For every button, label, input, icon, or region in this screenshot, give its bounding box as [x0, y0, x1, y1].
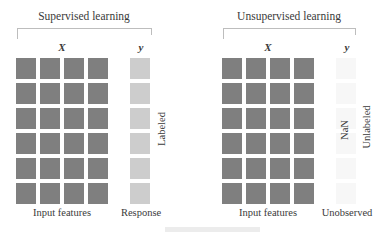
feature-cell	[270, 108, 290, 129]
unsupervised-y-label: y	[345, 41, 350, 53]
feature-cell	[16, 133, 36, 154]
response-cell	[130, 183, 150, 204]
feature-cell	[294, 58, 314, 79]
response-label: Response	[121, 207, 161, 218]
feature-cell	[16, 108, 36, 129]
feature-cell	[270, 158, 290, 179]
feature-cell	[16, 83, 36, 104]
response-cell	[130, 133, 150, 154]
feature-cell	[222, 58, 242, 79]
feature-cell	[64, 183, 84, 204]
feature-cell	[16, 158, 36, 179]
feature-cell	[222, 183, 242, 204]
feature-cell	[294, 83, 314, 104]
feature-cell	[222, 83, 242, 104]
unsupervised-input-features-label: Input features	[239, 207, 297, 218]
feature-cell	[40, 58, 60, 79]
feature-cell	[270, 58, 290, 79]
feature-cell	[246, 158, 266, 179]
feature-cell	[16, 183, 36, 204]
labeled-label: Labeled	[156, 112, 167, 146]
unobserved-cell	[336, 183, 356, 204]
response-cell	[130, 108, 150, 129]
unobserved-label: Unobserved	[322, 207, 373, 218]
feature-cell	[64, 83, 84, 104]
feature-cell	[294, 133, 314, 154]
feature-cell	[40, 108, 60, 129]
feature-cell	[222, 108, 242, 129]
unsupervised-bracket-left-tick	[223, 28, 224, 39]
feature-cell	[270, 183, 290, 204]
feature-cell	[16, 58, 36, 79]
feature-cell	[270, 133, 290, 154]
unobserved-cell	[336, 83, 356, 104]
supervised-bracket	[17, 28, 151, 29]
feature-cell	[88, 133, 108, 154]
feature-cell	[294, 108, 314, 129]
feature-cell	[246, 108, 266, 129]
unsupervised-x-label: X	[264, 41, 271, 53]
feature-cell	[40, 183, 60, 204]
unlabeled-label: Unlabeled	[361, 105, 372, 148]
feature-cell	[294, 183, 314, 204]
supervised-bracket-left-tick	[17, 28, 18, 39]
feature-cell	[88, 183, 108, 204]
unobserved-cell	[336, 158, 356, 179]
supervised-x-label: X	[58, 41, 65, 53]
supervised-y-label: y	[139, 41, 144, 53]
supervised-input-features-label: Input features	[33, 207, 91, 218]
feature-cell	[88, 158, 108, 179]
feature-cell	[88, 58, 108, 79]
feature-cell	[246, 183, 266, 204]
feature-cell	[222, 158, 242, 179]
unsupervised-title: Unsupervised learning	[237, 10, 341, 22]
feature-cell	[40, 158, 60, 179]
feature-cell	[246, 58, 266, 79]
figure-caption-cutoff	[165, 227, 260, 232]
feature-cell	[246, 133, 266, 154]
feature-cell	[222, 133, 242, 154]
feature-cell	[88, 108, 108, 129]
feature-cell	[64, 108, 84, 129]
unsupervised-bracket-right-tick	[355, 28, 356, 35]
unobserved-cell	[336, 58, 356, 79]
response-cell	[130, 83, 150, 104]
feature-cell	[64, 133, 84, 154]
supervised-bracket-right-tick	[151, 28, 152, 35]
unsupervised-bracket	[223, 28, 355, 29]
response-cell	[130, 58, 150, 79]
feature-cell	[270, 83, 290, 104]
feature-cell	[40, 133, 60, 154]
supervised-title: Supervised learning	[38, 10, 130, 22]
feature-cell	[64, 158, 84, 179]
feature-cell	[246, 83, 266, 104]
feature-cell	[40, 83, 60, 104]
response-cell	[130, 158, 150, 179]
feature-cell	[64, 58, 84, 79]
nan-label: NaN	[339, 120, 350, 140]
feature-cell	[294, 158, 314, 179]
feature-cell	[88, 83, 108, 104]
